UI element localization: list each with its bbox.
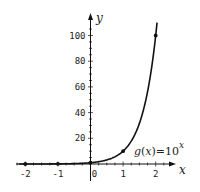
x-axis-label: x bbox=[179, 163, 186, 177]
y-tick-label: 40 bbox=[75, 108, 86, 118]
x-tick-label: 1 bbox=[120, 169, 125, 179]
series-line-g bbox=[19, 23, 157, 164]
annotation-exponent: x bbox=[179, 140, 184, 150]
y-tick-label: 60 bbox=[75, 82, 86, 92]
y-tick-label: 100 bbox=[69, 31, 85, 41]
y-axis-arrow-icon bbox=[88, 13, 93, 20]
x-tick-label: 0 bbox=[92, 169, 97, 179]
exponential-chart: -2-101220406080100 x y g(x)=10x bbox=[0, 0, 200, 192]
data-point bbox=[154, 34, 158, 38]
x-tick-label: -1 bbox=[52, 169, 63, 179]
y-tick-label: 80 bbox=[75, 56, 86, 66]
y-tick-label: 20 bbox=[75, 133, 86, 143]
annotation-func: g bbox=[134, 145, 141, 158]
data-point bbox=[56, 162, 60, 166]
annotation-eq: =10 bbox=[156, 145, 179, 158]
x-tick-label: -2 bbox=[20, 169, 31, 179]
data-point bbox=[121, 149, 125, 153]
data-point bbox=[23, 162, 27, 166]
data-point bbox=[89, 161, 93, 165]
y-axis-label: y bbox=[95, 11, 103, 25]
x-tick-label: 2 bbox=[153, 169, 158, 179]
x-axis-arrow-icon bbox=[169, 162, 176, 167]
function-annotation: g(x)=10x bbox=[134, 140, 184, 158]
